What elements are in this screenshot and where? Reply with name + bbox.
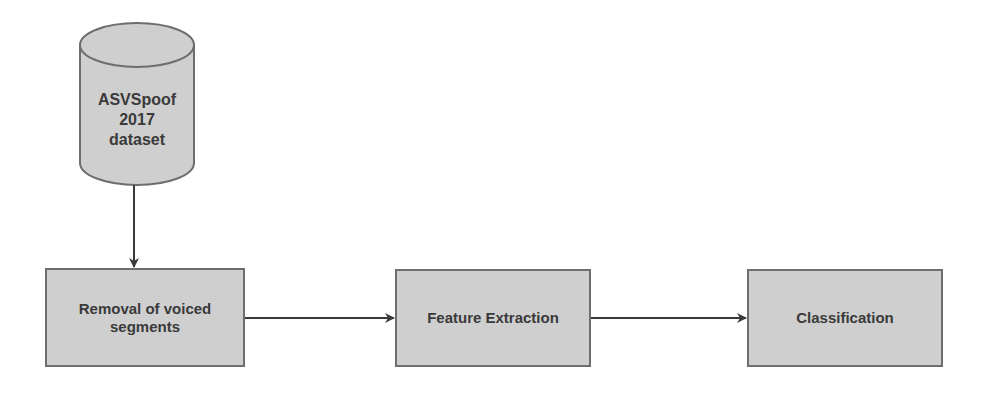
removal-label-line-1: Removal of voiced xyxy=(79,300,212,318)
feature-extraction-text: Feature Extraction xyxy=(427,309,559,327)
removal-label: Removal of voiced segments xyxy=(47,270,243,365)
dataset-label-line-3: dataset xyxy=(109,130,165,150)
dataset-label: ASVSpoof 2017 dataset xyxy=(80,72,194,168)
classification-text: Classification xyxy=(796,309,894,327)
classification-box: Classification xyxy=(747,269,943,367)
removal-of-voiced-segments-box: Removal of voiced segments xyxy=(45,268,245,367)
removal-label-line-2: segments xyxy=(110,318,180,336)
feature-extraction-box: Feature Extraction xyxy=(395,269,591,367)
dataset-label-line-2: 2017 xyxy=(119,110,155,130)
dataset-label-line-1: ASVSpoof xyxy=(98,90,176,110)
feature-extraction-label: Feature Extraction xyxy=(397,271,589,365)
classification-label: Classification xyxy=(749,271,941,365)
